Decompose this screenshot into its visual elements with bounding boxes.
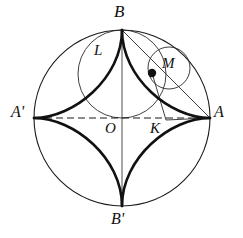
astroid-diagram xyxy=(0,0,243,238)
label-a-prime: A' xyxy=(11,104,24,120)
label-b-prime: B' xyxy=(111,211,124,227)
point-m-dot xyxy=(148,69,156,77)
label-b: B xyxy=(114,3,124,20)
label-k: K xyxy=(150,121,160,136)
label-o: O xyxy=(105,121,116,136)
astroid-arc-bottom-right xyxy=(122,118,210,206)
label-m: M xyxy=(162,56,175,71)
label-l: L xyxy=(94,43,102,58)
label-a: A xyxy=(214,104,224,120)
